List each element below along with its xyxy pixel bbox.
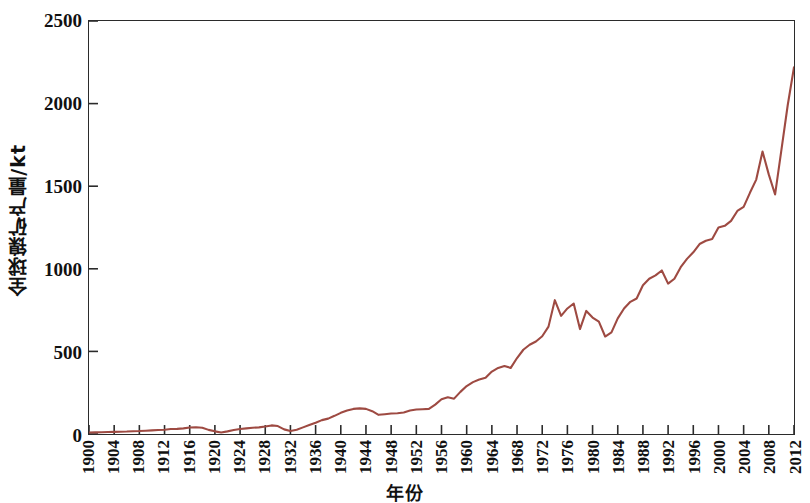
x-axis-tick-label: 1928 [256, 440, 273, 474]
y-axis-tick-label: 2500 [44, 11, 82, 30]
x-axis-tick-label: 1956 [433, 440, 450, 474]
x-axis-tick-label: 1916 [181, 440, 198, 474]
x-axis-tick-label: 1932 [282, 440, 299, 474]
x-axis-tick-label: 1952 [408, 440, 425, 474]
x-axis-tick-label: 1944 [357, 440, 374, 474]
y-axis-tick-label: 1500 [44, 177, 82, 196]
y-axis-title-text: 全球镍矿产量/kt [4, 144, 31, 296]
data-series-line [89, 67, 794, 432]
x-axis-tick-label: 1900 [80, 440, 97, 474]
x-axis-tick-label: 1924 [231, 440, 248, 474]
x-axis-tick-label: 1908 [130, 440, 147, 474]
x-axis-tick-label: 1940 [332, 440, 349, 474]
y-axis-tick-label: 1000 [44, 260, 82, 279]
y-axis-tick-marks [89, 21, 98, 434]
x-axis-tick-label: 1988 [635, 440, 652, 474]
line-chart-svg [89, 21, 794, 434]
x-axis-tick-label: 1996 [686, 440, 703, 474]
x-axis-tick-label: 1976 [559, 440, 576, 474]
x-axis-tick-label: 2008 [761, 440, 778, 474]
x-axis-tick-label: 1992 [660, 440, 677, 474]
x-axis-tick-label: 1912 [155, 440, 172, 474]
x-axis-title: 年份 [0, 479, 810, 503]
x-axis-tick-label: 1968 [509, 440, 526, 474]
y-axis-tick-label: 2000 [44, 94, 82, 113]
x-axis-tick-label: 1904 [105, 440, 122, 474]
chart-figure: 全球镍矿产量/kt 05001000150020002500 190019041… [0, 0, 810, 503]
plot-area [88, 20, 795, 435]
x-axis-tick-label: 2000 [711, 440, 728, 474]
x-axis-tick-label: 1920 [206, 440, 223, 474]
x-axis-tick-label: 1964 [484, 440, 501, 474]
x-axis-tick-label: 1936 [307, 440, 324, 474]
x-axis-tick-label: 1948 [383, 440, 400, 474]
x-axis-tick-label: 1984 [610, 440, 627, 474]
x-axis-tick-labels: 1900190419081912191619201924192819321936… [88, 440, 795, 480]
x-axis-tick-label: 2012 [787, 440, 804, 474]
x-axis-tick-label: 1980 [585, 440, 602, 474]
x-axis-tick-label: 1960 [458, 440, 475, 474]
y-axis-tick-label: 500 [54, 343, 83, 362]
y-axis-tick-labels: 05001000150020002500 [28, 0, 82, 450]
x-axis-tick-label: 1972 [534, 440, 551, 474]
x-axis-tick-label: 2004 [736, 440, 753, 474]
